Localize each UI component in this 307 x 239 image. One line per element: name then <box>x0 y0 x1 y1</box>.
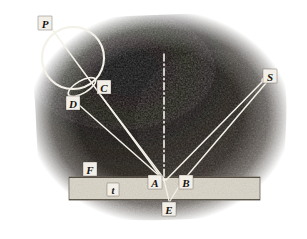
point-label-S: S <box>263 69 277 83</box>
point-label-D: D <box>66 96 80 110</box>
point-label-A: A <box>148 175 162 189</box>
point-label-F-text: F <box>85 164 94 176</box>
point-label-C-text: C <box>100 82 108 94</box>
point-label-B-text: B <box>181 177 189 189</box>
point-label-A-text: A <box>150 177 158 189</box>
point-label-F: F <box>83 162 97 176</box>
charcoal-field <box>0 0 307 239</box>
point-label-P-text: P <box>42 18 49 30</box>
diagram-canvas: P C D S F t <box>0 0 307 239</box>
point-label-S-text: S <box>267 71 273 83</box>
optics-figure: P C D S F t <box>0 0 307 239</box>
point-label-D-text: D <box>68 98 77 110</box>
point-label-B: B <box>179 175 193 189</box>
point-label-E-text: E <box>164 204 172 216</box>
point-label-P: P <box>38 16 52 30</box>
point-label-E: E <box>162 202 176 216</box>
thickness-label-t: t <box>107 183 119 196</box>
point-label-C: C <box>97 80 111 94</box>
